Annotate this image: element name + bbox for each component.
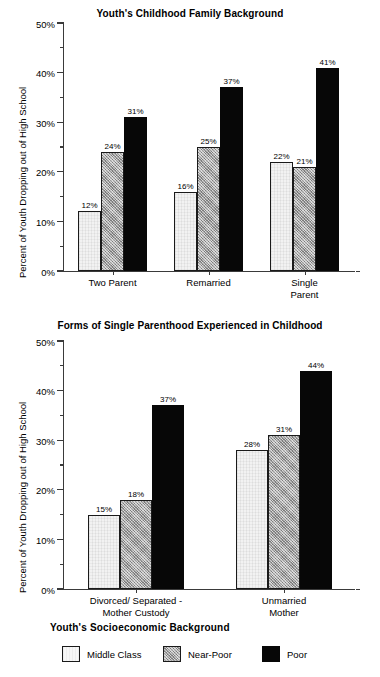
y-tick-minor — [60, 97, 64, 98]
bar-value-label: 31% — [127, 107, 143, 116]
bar-nearpoor: 25% — [197, 147, 220, 271]
x-group-label: Remarried — [186, 277, 230, 289]
y-tick-major — [57, 171, 64, 172]
y-tick-label: 40% — [36, 68, 55, 79]
legend-label-middle-class: Middle Class — [87, 649, 141, 660]
bar-value-label: 21% — [296, 157, 312, 166]
y-tick-minor — [60, 47, 64, 48]
legend-swatch-middle-class — [62, 646, 80, 662]
bar-poor: 41% — [316, 68, 339, 271]
bar-nearpoor: 24% — [101, 152, 124, 271]
chart-youth-childhood-family-background: Youth's Childhood Family Background Perc… — [0, 0, 380, 315]
legend-swatch-near-poor — [163, 646, 181, 662]
y-tick-major — [57, 588, 64, 589]
bar-middle: 15% — [88, 515, 120, 589]
x-group-label: Unmarried Mother — [262, 595, 306, 618]
x-axis-baseline-extension — [356, 589, 360, 590]
bar-middle: 28% — [236, 450, 268, 589]
chart-title-bottom: Forms of Single Parenthood Experienced i… — [0, 320, 380, 331]
y-tick-label: 50% — [36, 18, 55, 29]
bar-middle: 22% — [270, 162, 293, 271]
y-tick-label: 40% — [36, 386, 55, 397]
y-tick-label: 30% — [36, 435, 55, 446]
bar-poor: 31% — [124, 117, 147, 271]
x-group-label: Two Parent — [88, 277, 136, 289]
bar-value-label: 37% — [223, 77, 239, 86]
y-tick-label: 30% — [36, 117, 55, 128]
x-tick — [209, 271, 210, 275]
chart-forms-of-single-parenthood: Forms of Single Parenthood Experienced i… — [0, 318, 380, 618]
y-tick-label: 10% — [36, 217, 55, 228]
legend-title: Youth's Socioeconomic Background — [50, 622, 230, 633]
y-tick-minor — [60, 514, 64, 515]
bar-value-label: 44% — [308, 361, 324, 370]
bar-value-label: 18% — [128, 490, 144, 499]
bar-poor: 37% — [152, 405, 184, 589]
bar-nearpoor: 21% — [293, 167, 316, 271]
y-tick-major — [57, 539, 64, 540]
x-group-label: Divorced/ Separated - Mother Custody — [90, 595, 182, 618]
legend-label-near-poor: Near-Poor — [188, 649, 232, 660]
y-tick-minor — [60, 464, 64, 465]
y-axis-label-top: Percent of Youth Dropping out of High Sc… — [17, 87, 28, 278]
bar-value-label: 41% — [319, 58, 335, 67]
bar-nearpoor: 31% — [268, 435, 300, 589]
x-group-label: Single Parent — [279, 277, 330, 300]
plot-area-top: 0%10%20%30%40%50%12%24%31%Two Parent16%2… — [63, 24, 355, 272]
legend: Youth's Socioeconomic Background Middle … — [0, 622, 380, 677]
legend-item-near-poor: Near-Poor — [163, 646, 232, 662]
plot-area-bottom: 0%10%20%30%40%50%15%18%37%Divorced/ Sepa… — [63, 342, 355, 590]
y-tick-label: 50% — [36, 336, 55, 347]
y-tick-major — [57, 340, 64, 341]
bar-value-label: 24% — [104, 142, 120, 151]
y-tick-major — [57, 489, 64, 490]
y-tick-major — [57, 122, 64, 123]
y-tick-minor — [60, 196, 64, 197]
legend-label-poor: Poor — [287, 649, 307, 660]
y-tick-minor — [60, 415, 64, 416]
bar-poor: 44% — [300, 371, 332, 589]
x-tick — [284, 589, 285, 593]
y-tick-label: 0% — [41, 266, 55, 277]
legend-swatch-poor — [262, 646, 280, 662]
bar-poor: 37% — [220, 87, 243, 271]
y-tick-minor — [60, 246, 64, 247]
y-tick-major — [57, 72, 64, 73]
x-tick — [136, 589, 137, 593]
chart-title-top: Youth's Childhood Family Background — [0, 8, 380, 19]
y-tick-minor — [60, 365, 64, 366]
bar-value-label: 15% — [96, 505, 112, 514]
y-tick-minor — [60, 564, 64, 565]
y-tick-major — [57, 390, 64, 391]
x-tick — [113, 271, 114, 275]
bar-value-label: 37% — [160, 395, 176, 404]
bar-nearpoor: 18% — [120, 500, 152, 589]
bar-middle: 12% — [78, 211, 101, 271]
x-tick — [305, 271, 306, 275]
y-tick-label: 0% — [41, 584, 55, 595]
y-tick-label: 20% — [36, 167, 55, 178]
x-axis-baseline-extension — [356, 271, 360, 272]
y-tick-minor — [60, 146, 64, 147]
y-tick-major — [57, 270, 64, 271]
y-tick-label: 20% — [36, 485, 55, 496]
bar-value-label: 16% — [177, 182, 193, 191]
bar-value-label: 25% — [200, 137, 216, 146]
y-tick-major — [57, 440, 64, 441]
bar-value-label: 22% — [273, 152, 289, 161]
bar-value-label: 12% — [81, 201, 97, 210]
y-tick-major — [57, 221, 64, 222]
bar-value-label: 28% — [244, 440, 260, 449]
legend-item-poor: Poor — [262, 646, 307, 662]
y-tick-label: 10% — [36, 535, 55, 546]
bar-middle: 16% — [174, 192, 197, 271]
legend-item-middle-class: Middle Class — [62, 646, 141, 662]
y-tick-major — [57, 22, 64, 23]
y-axis-label-bottom: Percent of Youth Dropping out of High Sc… — [17, 402, 28, 593]
bar-value-label: 31% — [276, 425, 292, 434]
